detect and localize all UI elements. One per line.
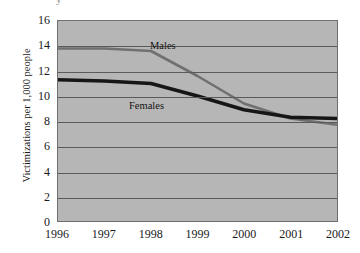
gridline <box>58 46 337 47</box>
clipped-top-text: y <box>56 0 62 5</box>
y-tick-label: 14 <box>22 39 50 51</box>
x-tick-label: 1998 <box>139 228 163 240</box>
x-tick-label: 1999 <box>186 228 210 240</box>
series-line-females <box>58 80 337 119</box>
y-tick-label: 12 <box>22 65 50 77</box>
series-lines <box>58 21 337 221</box>
y-tick-label: 16 <box>22 14 50 26</box>
x-tick-label: 2000 <box>232 228 256 240</box>
x-axis-tick-labels: 1996199719981999200020012002 <box>57 228 338 248</box>
y-axis-tick-labels: 0246810121416 <box>22 0 50 253</box>
gridline <box>58 122 337 123</box>
series-line-males <box>58 48 337 124</box>
y-tick-label: 8 <box>22 115 50 127</box>
gridline <box>58 97 337 98</box>
x-tick-label: 1996 <box>45 228 69 240</box>
plot-area <box>57 20 338 222</box>
series-label-females: Females <box>129 100 164 111</box>
gridline <box>58 147 337 148</box>
y-tick-label: 10 <box>22 90 50 102</box>
y-tick-label: 4 <box>22 166 50 178</box>
gridline <box>58 72 337 73</box>
series-label-males: Males <box>150 40 176 51</box>
gridline <box>58 173 337 174</box>
x-tick-label: 2002 <box>326 228 350 240</box>
line-chart: y Victimizations per 1,000 people 024681… <box>0 0 360 253</box>
y-tick-label: 2 <box>22 191 50 203</box>
y-tick-label: 6 <box>22 140 50 152</box>
x-tick-label: 1997 <box>92 228 116 240</box>
x-tick-label: 2001 <box>279 228 303 240</box>
gridline <box>58 198 337 199</box>
